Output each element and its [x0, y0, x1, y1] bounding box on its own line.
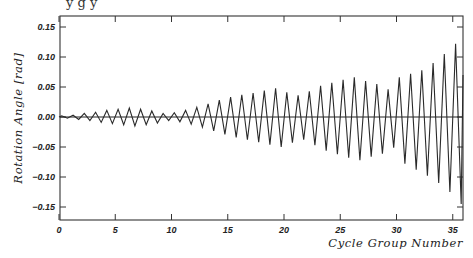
x-tick-label: 0 [56, 225, 61, 235]
x-tick-label: 25 [334, 225, 346, 235]
x-tick-label: 10 [166, 225, 176, 235]
y-tick-label: −0.15 [32, 202, 56, 212]
x-tick-label: 15 [223, 225, 234, 235]
x-tick-label: 5 [113, 225, 119, 235]
y-tick-label: 0.10 [37, 52, 55, 62]
rotation-angle-chart: y g y 0.150.100.050.00−0.05−0.10−0.15 05… [0, 0, 473, 258]
y-tick-label: 0.05 [37, 82, 56, 92]
x-axis-label: Cycle Group Number [328, 236, 464, 250]
y-axis-label: Rotation Angle [rad] [11, 52, 25, 184]
x-axis: 05101520253035 [56, 16, 458, 235]
y-tick-label: −0.10 [32, 172, 55, 182]
y-tick-label: 0.00 [37, 112, 55, 122]
x-tick-label: 30 [391, 225, 401, 235]
caption-fragment: y g y [65, 0, 98, 10]
y-tick-label: −0.05 [32, 142, 56, 152]
x-tick-label: 20 [278, 225, 289, 235]
y-tick-label: 0.15 [37, 22, 56, 32]
x-tick-label: 35 [448, 225, 459, 235]
rotation-angle-series [59, 44, 463, 204]
